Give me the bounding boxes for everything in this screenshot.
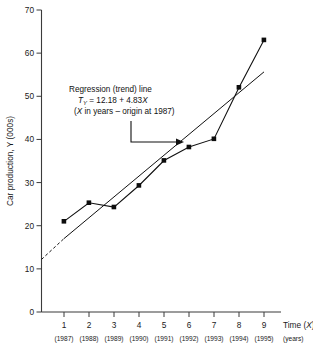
data-point-1990	[137, 183, 142, 188]
y-tick-label-30: 30	[25, 178, 35, 188]
annotation-line-1: Regression (trend) line	[69, 85, 152, 94]
annotation-arrow-line	[131, 121, 176, 142]
x-tick-label-6: 6	[187, 320, 192, 330]
chart-figure: 0 10 20 30 40 50 60 70 Car production, Y…	[0, 0, 313, 354]
y-axis-tick-labels: 0 10 20 30 40 50 60 70	[25, 5, 35, 317]
data-point-1989	[112, 205, 117, 210]
x-year-label-1995: (1995)	[254, 335, 273, 343]
data-point-1992	[187, 145, 192, 150]
car-production-data-line	[64, 40, 264, 221]
x-year-label-1988: (1988)	[79, 335, 98, 343]
x-tick-label-2: 2	[87, 320, 92, 330]
annotation-eq-var: X	[141, 96, 148, 105]
x-axis-subtitle: (years)	[283, 335, 304, 343]
y-tick-label-50: 50	[25, 91, 35, 101]
x-year-label-1994: (1994)	[229, 335, 248, 343]
data-point-1995	[262, 38, 267, 43]
x-tick-label-7: 7	[212, 320, 217, 330]
x-year-label-1987: (1987)	[54, 335, 73, 343]
annotation-line-3: (X in years – origin at 1987)	[74, 107, 175, 116]
x-year-label-1991: (1991)	[154, 335, 173, 343]
x-tick-label-5: 5	[162, 320, 167, 330]
data-point-1991	[162, 158, 167, 163]
x-year-label-1990: (1990)	[129, 335, 148, 343]
x-year-label-1992: (1992)	[179, 335, 198, 343]
x-tick-label-1: 1	[62, 320, 67, 330]
y-tick-label-10: 10	[25, 264, 35, 274]
x-year-label-1993: (1993)	[204, 335, 223, 343]
data-point-1993	[212, 137, 217, 142]
annotation-eq-rest: = 12.18 + 4.83	[87, 96, 143, 105]
x-tick-label-3: 3	[112, 320, 117, 330]
data-point-1987	[62, 219, 67, 224]
y-axis-title: Car production, Y (000s)	[5, 116, 15, 206]
x-axis-year-labels: (1987) (1988) (1989) (1990) (1991) (1992…	[54, 335, 273, 343]
annotation-line-2: TY = 12.18 + 4.83X	[78, 96, 148, 106]
x-year-label-1989: (1989)	[104, 335, 123, 343]
y-axis-ticks	[37, 10, 42, 312]
data-point-1994	[237, 85, 242, 90]
y-tick-label-20: 20	[25, 221, 35, 231]
x-tick-label-4: 4	[137, 320, 142, 330]
regression-trend-line-extrapolation	[42, 239, 65, 260]
regression-annotation: Regression (trend) line TY = 12.18 + 4.8…	[69, 85, 184, 146]
y-tick-label-70: 70	[25, 5, 35, 15]
x-tick-label-8: 8	[237, 320, 242, 330]
data-point-1988	[87, 200, 92, 205]
x-axis-title: Time (X)	[283, 320, 313, 330]
data-point-markers	[62, 38, 267, 224]
y-tick-label-60: 60	[25, 48, 35, 58]
x-tick-label-9: 9	[262, 320, 267, 330]
y-tick-label-40: 40	[25, 134, 35, 144]
annotation-line3-rest: in years – origin at 1987)	[82, 107, 175, 116]
y-tick-label-0: 0	[29, 307, 34, 317]
car-production-trend-chart: 0 10 20 30 40 50 60 70 Car production, Y…	[0, 0, 313, 354]
x-axis-title-label: Time	[283, 320, 302, 330]
x-axis-tick-labels: 1 2 3 4 5 6 7 8 9	[62, 320, 267, 330]
x-axis-ticks	[64, 312, 264, 317]
